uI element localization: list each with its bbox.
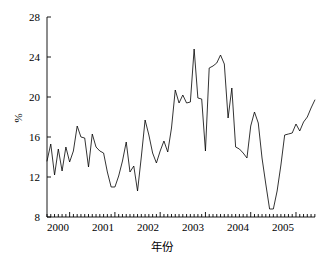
axis-lines (47, 17, 315, 217)
chart-figure: % 28 24 20 16 12 8 2000 2001 2002 2003 2… (0, 0, 324, 259)
data-series-line (47, 49, 315, 209)
chart-canvas (0, 0, 324, 259)
tick-marks (47, 17, 315, 217)
